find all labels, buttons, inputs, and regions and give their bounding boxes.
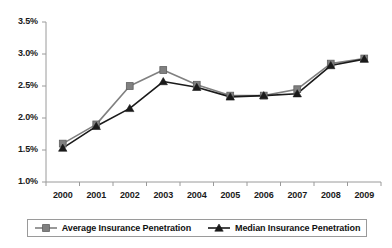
data-point-average-2003 [160,67,167,74]
y-axis-tick-label: 3.5% [4,16,38,26]
y-axis-tick-label: 1.5% [4,144,38,154]
legend-item-median: Median Insurance Penetration [207,222,360,234]
y-axis-tick-label: 1.0% [4,176,38,186]
plot-area [0,0,392,248]
data-point-median-2003 [159,78,167,85]
legend-item-average: Average Insurance Penetration [34,222,191,234]
square-marker-icon [34,222,58,234]
legend-label: Median Insurance Penetration [235,223,360,233]
line-chart: 1.0%1.5%2.0%2.5%3.0%3.5% 200020012002200… [0,0,392,248]
y-axis-tick-label: 2.0% [4,112,38,122]
legend-label: Average Insurance Penetration [62,223,191,233]
chart-legend: Average Insurance PenetrationMedian Insu… [27,219,367,237]
y-axis-tick-label: 3.0% [4,48,38,58]
data-point-average-2002 [126,83,133,90]
triangle-marker-icon [207,222,231,234]
x-axis-tick-label: 2009 [344,190,384,200]
series-line-average [63,58,365,143]
y-axis-tick-label: 2.5% [4,80,38,90]
